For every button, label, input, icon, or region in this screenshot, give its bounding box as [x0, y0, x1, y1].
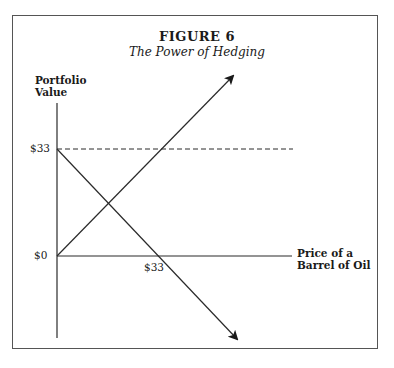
plot-area	[0, 0, 394, 368]
falling-line-arrow	[57, 149, 237, 339]
rising-line-arrow	[57, 76, 233, 256]
